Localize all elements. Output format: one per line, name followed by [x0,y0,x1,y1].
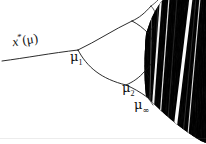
mu1-label: μ1 [70,50,82,67]
chaotic-speckle-layer-2 [140,0,206,144]
branch-period8-a [151,0,158,6]
mu1-subscript: 1 [78,58,82,67]
fixed-point-branch-label: x*(μ) [11,30,39,48]
bifurcation-diagram-figure: x*(μ) μ1 μ2 μ∞ [0,0,206,144]
branch-period2-lower [78,50,126,85]
branch-period4-upper-a [132,6,151,21]
branch-period2-upper [78,21,132,50]
chaotic-region [140,0,206,144]
branch-fixed-point [2,50,78,61]
bifurcation-point-ticks [78,50,126,86]
branch-period8-b [151,6,155,12]
scan-artifact-line [0,138,206,139]
mu-infinity-subscript: ∞ [142,106,149,115]
branch-period4-upper-b [132,21,148,33]
mu-infinity-label: μ∞ [134,98,149,115]
mu2-label: μ2 [122,81,134,98]
bifurcation-plot [0,0,206,144]
label-mu-argument: (μ) [21,30,39,47]
